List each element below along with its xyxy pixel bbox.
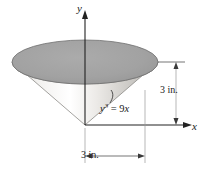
dimension-arrow-up (174, 62, 179, 69)
cone-figure: y x 3 in. 3 in. y3 = 9x (0, 0, 205, 174)
x-axis-label: x (192, 121, 197, 132)
dimension-radius-label: 3 in. (81, 150, 99, 160)
dimension-arrow-right (138, 154, 145, 159)
x-axis-arrowhead (183, 122, 192, 128)
equation-operator: = 9 (108, 103, 124, 114)
y-axis-arrowhead (82, 10, 88, 19)
equation-variable-x: x (125, 103, 130, 114)
dimension-arrow-down (174, 118, 179, 125)
y-axis-label: y (77, 3, 82, 14)
curve-equation-label: y3 = 9x (100, 104, 129, 115)
dimension-height-label: 3 in. (160, 85, 178, 95)
